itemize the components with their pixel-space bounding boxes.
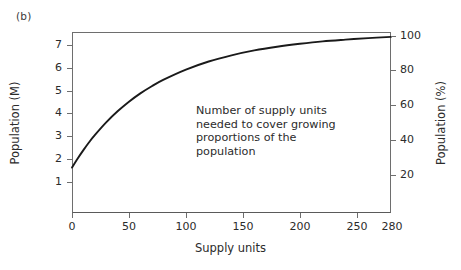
chart-annotation: Number of supply units needed to cover g… xyxy=(196,104,336,158)
tick-right-80 xyxy=(391,70,396,71)
ytick-label-left-5: 5 xyxy=(55,85,62,96)
tick-left-1 xyxy=(67,182,72,183)
tick-right-100 xyxy=(391,36,396,37)
annotation-line-1: Number of supply units xyxy=(196,104,336,118)
tick-bottom-50 xyxy=(129,213,130,218)
ytick-label-left-2: 2 xyxy=(55,153,62,164)
ytick-label-right-40: 40 xyxy=(400,134,414,145)
tick-bottom-100 xyxy=(186,213,187,218)
tick-right-60 xyxy=(391,105,396,106)
xtick-label-0: 0 xyxy=(69,221,76,232)
annotation-line-2: needed to cover growing xyxy=(196,118,336,132)
ytick-label-right-60: 60 xyxy=(400,99,414,110)
ytick-label-left-3: 3 xyxy=(55,130,62,141)
ytick-label-left-1: 1 xyxy=(55,176,62,187)
tick-bottom-150 xyxy=(243,213,244,218)
tick-left-5 xyxy=(67,91,72,92)
tick-bottom-0 xyxy=(72,213,73,218)
ytick-label-left-6: 6 xyxy=(55,62,62,73)
chart-figure: (b) 7 6 5 4 3 2 1 100 80 60 40 20 0 50 1… xyxy=(0,0,461,270)
tick-left-7 xyxy=(67,45,72,46)
ytick-label-left-7: 7 xyxy=(55,39,62,50)
ytick-label-left-4: 4 xyxy=(55,107,62,118)
ytick-label-right-100: 100 xyxy=(400,30,421,41)
annotation-line-4: population xyxy=(196,145,336,159)
annotation-line-3: proportions of the xyxy=(196,131,336,145)
x-axis-title: Supply units xyxy=(0,241,461,255)
xtick-label-100: 100 xyxy=(176,221,197,232)
y-axis-title-left: Population (M) xyxy=(8,53,22,193)
ytick-label-right-80: 80 xyxy=(400,64,414,75)
tick-bottom-200 xyxy=(300,213,301,218)
xtick-label-200: 200 xyxy=(290,221,311,232)
y-axis-title-right: Population (%) xyxy=(434,53,448,193)
xtick-label-250: 250 xyxy=(347,221,368,232)
xtick-label-280: 280 xyxy=(382,221,403,232)
xtick-label-50: 50 xyxy=(122,221,136,232)
ytick-label-right-20: 20 xyxy=(400,169,414,180)
tick-left-2 xyxy=(67,159,72,160)
panel-label: (b) xyxy=(16,10,31,22)
tick-left-3 xyxy=(67,136,72,137)
tick-bottom-250 xyxy=(357,213,358,218)
tick-right-40 xyxy=(391,140,396,141)
tick-right-20 xyxy=(391,175,396,176)
tick-left-6 xyxy=(67,68,72,69)
xtick-label-150: 150 xyxy=(233,221,254,232)
tick-left-4 xyxy=(67,113,72,114)
